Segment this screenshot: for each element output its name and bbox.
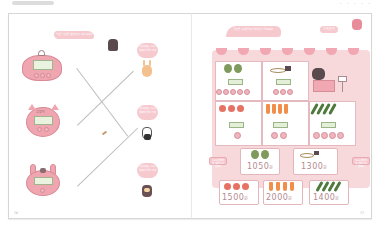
coin-icon: [216, 89, 222, 95]
purse-2-coin: [44, 127, 49, 132]
bill-icon: [273, 122, 288, 128]
cabbage-icon: [261, 150, 269, 159]
page-number-left: 76: [14, 211, 18, 215]
cabbage-icon: [251, 150, 259, 159]
bill-icon: [229, 122, 244, 128]
coin-icon: [280, 132, 287, 139]
cabbage-icon: [234, 64, 242, 73]
carrot-icon: [278, 104, 282, 114]
side-tag-right: 1000원짜리 몇 개와 100원짜리: [352, 157, 370, 165]
title-badge: 가게 놀이: [320, 26, 338, 33]
carrot-icon: [290, 182, 294, 191]
char-2-bubble: 내 지갑에는 1000원짜리가 들어 있어: [137, 105, 158, 120]
price-fish: 1300원: [301, 162, 328, 171]
carrot-icon: [266, 104, 270, 114]
tomato-icon: [242, 183, 249, 190]
purse-3-coin: [40, 188, 45, 193]
page-number-right: 77: [360, 211, 364, 215]
fish-tail: [285, 66, 291, 71]
purse-1-clasp: [38, 50, 45, 56]
price-tomato: 1500원: [222, 193, 249, 202]
purse-2-ear-right: [51, 104, 59, 110]
raccoon-face: [144, 188, 150, 192]
tomato-icon: [219, 105, 226, 112]
purse-1-coin: [34, 73, 39, 78]
coin-icon: [237, 89, 243, 95]
char-1-bubble: 내 지갑에는 1000원짜리가 들어 있어: [137, 43, 158, 58]
price-cabbage: 1050원: [247, 162, 274, 171]
carrot-icon: [269, 182, 273, 191]
bill-icon: [276, 79, 291, 85]
instruction-bubble-right: 물건을 사려면 얼마가 필요한지 알아보세요: [226, 26, 281, 37]
coin-icon: [244, 89, 250, 95]
cat-body: [144, 134, 151, 140]
carrot-icon: [283, 182, 287, 191]
shopkeeper-icon: [312, 68, 325, 80]
coin-icon: [234, 132, 241, 139]
coin-icon: [273, 89, 279, 95]
tomato-icon: [237, 105, 244, 112]
purse-1-coin: [40, 73, 45, 78]
raccoon-character-top: [108, 39, 118, 51]
tomato-icon: [228, 105, 235, 112]
header-right-text: · · · · ·: [340, 0, 372, 6]
purse-1-bills: [33, 60, 53, 70]
bill-icon: [321, 122, 336, 128]
rabbit-character[interactable]: [142, 65, 152, 77]
instruction-bubble-left: 알맞은 지갑을 찾아 선으로 이어 보세요: [54, 31, 94, 39]
side-tag-left: 1000원짜리 몇 개와 100원짜리: [209, 157, 227, 165]
bill-icon: [228, 79, 243, 85]
cabbage-icon: [224, 64, 232, 73]
purse-2-label: 고양이: [36, 110, 45, 114]
coin-icon: [337, 132, 344, 139]
price-cucumber: 1400원: [313, 193, 340, 202]
coin-icon: [280, 89, 286, 95]
rabbit-ear: [149, 60, 151, 66]
coin-icon: [271, 132, 278, 139]
coin-icon: [230, 89, 236, 95]
carrot-icon: [276, 182, 280, 191]
fish-icon: [300, 153, 314, 158]
rabbit-mascot: [352, 19, 362, 30]
shop-counter: [313, 80, 335, 92]
purse-3-bills: [34, 177, 53, 185]
purse-2-ear-left: [28, 104, 36, 110]
carrot-icon: [272, 104, 276, 114]
purse-3-face: [40, 168, 46, 173]
carrot-icon: [284, 104, 288, 114]
coin-icon: [321, 132, 328, 139]
coin-icon: [223, 89, 229, 95]
purse-1-coin: [46, 73, 51, 78]
price-carrot: 2000원: [266, 193, 293, 202]
purse-2-bills: [34, 116, 53, 125]
coin-icon: [313, 132, 320, 139]
coin-icon: [329, 132, 336, 139]
tomato-icon: [233, 183, 240, 190]
coin-icon: [287, 89, 293, 95]
tomato-icon: [224, 183, 231, 190]
char-3-bubble: 내 지갑에는 1000원짜리가 들어 있어: [137, 163, 158, 178]
rabbit-ear: [143, 60, 145, 66]
fish-tail: [314, 151, 319, 155]
sign-post: [342, 82, 343, 92]
header-tab: [12, 1, 54, 5]
purse-2-coin: [37, 127, 42, 132]
fish-icon: [270, 68, 286, 73]
